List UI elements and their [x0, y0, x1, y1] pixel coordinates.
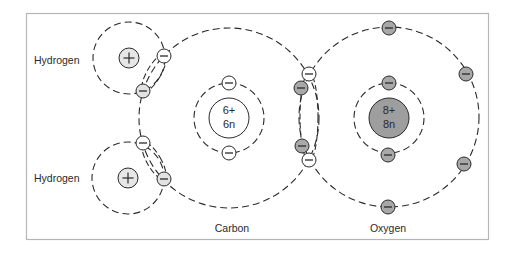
oxygen-electron-outer-right-top [459, 67, 473, 81]
oxygen-protons-text: 8+ [383, 104, 396, 116]
oxygen-electron-bond-bottom [295, 139, 309, 153]
oxygen-electron-inner-bottom [381, 148, 395, 162]
oxygen-electron-outer-bottom [381, 200, 395, 214]
oxygen-neutrons-text: 8n [383, 118, 395, 130]
carbon-electron-o-top [302, 67, 316, 81]
carbon-electron-h-top [157, 49, 171, 63]
carbon-electron-inner-top [222, 76, 236, 90]
carbon-electron-o-bottom [302, 153, 316, 167]
carbon-neutrons-text: 6n [223, 118, 235, 130]
diagram-frame [27, 14, 489, 240]
hydrogen-bottom-electron [157, 172, 171, 186]
hydrogen-top-proton [119, 48, 139, 68]
carbon-electron-inner-bottom [222, 146, 236, 160]
carbon-electron-h-bottom [136, 136, 150, 150]
oxygen-label: Oxygen [370, 222, 406, 234]
carbon-nucleus: 6+ 6n [209, 98, 249, 138]
oxygen-electron-outer-right-bottom [457, 157, 471, 171]
oxygen-nucleus: 8+ 8n [369, 98, 409, 138]
oxygen-electron-bond-top [294, 81, 308, 95]
hydrogen-top-label: Hydrogen [34, 54, 80, 66]
carbon-protons-text: 6+ [223, 104, 236, 116]
orbits [92, 22, 479, 214]
oxygen-electron-outer-top [382, 21, 396, 35]
hydrogen-top-electron [136, 84, 150, 98]
hydrogen-bottom-proton [118, 168, 138, 188]
carbon-label: Carbon [215, 222, 250, 234]
oxygen-electron-inner-top [382, 76, 396, 90]
formaldehyde-bonding-diagram: 6+ 6n 8+ 8n Hydrogen Hydrogen Carbon Oxy… [0, 0, 508, 254]
hydrogen-bottom-label: Hydrogen [34, 172, 80, 184]
